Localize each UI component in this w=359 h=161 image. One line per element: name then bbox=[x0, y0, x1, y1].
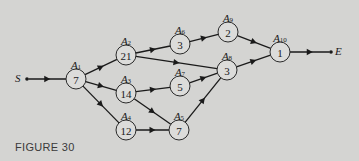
arrowhead-icon bbox=[200, 36, 207, 42]
svg-text:7: 7 bbox=[73, 74, 79, 86]
activity-node-A1: 7A1 bbox=[66, 59, 86, 89]
svg-text:A8: A8 bbox=[221, 50, 233, 62]
edge-A6-A9 bbox=[190, 34, 219, 41]
edge-A8-A10 bbox=[236, 55, 270, 67]
edge-A4-A5 bbox=[136, 127, 169, 133]
terminal-S: S bbox=[15, 72, 29, 84]
activity-node-A10: 1A10 bbox=[270, 32, 290, 62]
arrowhead-icon bbox=[307, 49, 313, 55]
svg-text:A2: A2 bbox=[120, 35, 132, 47]
activity-node-A9: 2A9 bbox=[218, 12, 238, 42]
svg-text:2: 2 bbox=[225, 27, 231, 39]
svg-text:A9: A9 bbox=[222, 12, 234, 24]
svg-text:A4: A4 bbox=[120, 110, 132, 122]
edge-A1-A3 bbox=[86, 82, 117, 91]
arrowhead-icon bbox=[97, 82, 104, 88]
edge-S-A1 bbox=[29, 76, 67, 82]
svg-text:E: E bbox=[334, 45, 342, 57]
precedence-network-diagram: SE7A121A214A312A47A53A65A73A82A91A10 bbox=[0, 0, 359, 161]
svg-text:14: 14 bbox=[121, 88, 133, 100]
activity-node-A3: 14A3 bbox=[116, 73, 136, 103]
activity-node-A4: 12A4 bbox=[116, 110, 136, 140]
edge-A2-A6 bbox=[136, 46, 170, 53]
edge-A5-A8 bbox=[185, 78, 221, 122]
svg-text:21: 21 bbox=[121, 50, 132, 62]
activity-node-A2: 21A2 bbox=[116, 35, 136, 65]
svg-text:A1: A1 bbox=[70, 59, 82, 71]
svg-text:3: 3 bbox=[224, 65, 230, 77]
svg-text:S: S bbox=[15, 72, 21, 84]
edge-A1-A2 bbox=[85, 59, 117, 74]
arrowhead-icon bbox=[149, 47, 156, 53]
activity-node-A7: 5A7 bbox=[170, 66, 190, 96]
svg-text:A10: A10 bbox=[272, 32, 287, 44]
svg-text:12: 12 bbox=[121, 125, 132, 137]
terminal-E: E bbox=[329, 45, 342, 57]
arrowhead-icon bbox=[173, 59, 179, 65]
figure-caption: FIGURE 30 bbox=[15, 141, 75, 153]
svg-text:A5: A5 bbox=[173, 110, 185, 122]
arrowhead-icon bbox=[148, 107, 155, 113]
svg-text:1: 1 bbox=[277, 47, 283, 59]
edge-A7-A8 bbox=[189, 73, 217, 83]
svg-text:A7: A7 bbox=[174, 66, 186, 78]
edge-A3-A5 bbox=[134, 99, 171, 125]
arrowhead-icon bbox=[150, 127, 156, 133]
activity-node-A5: 7A5 bbox=[169, 110, 189, 140]
svg-text:3: 3 bbox=[177, 39, 183, 51]
edge-A10-E bbox=[290, 49, 330, 55]
activity-node-A8: 3A8 bbox=[217, 50, 237, 80]
edge-A3-A7 bbox=[136, 87, 170, 93]
edge-A9-A10 bbox=[237, 36, 270, 49]
activity-node-A6: 3A6 bbox=[170, 24, 190, 54]
arrowhead-icon bbox=[44, 76, 50, 82]
svg-text:A3: A3 bbox=[120, 73, 132, 85]
edge-A1-A4 bbox=[83, 86, 119, 123]
svg-text:5: 5 bbox=[177, 81, 183, 93]
svg-text:7: 7 bbox=[176, 125, 182, 137]
svg-text:A6: A6 bbox=[174, 24, 186, 36]
